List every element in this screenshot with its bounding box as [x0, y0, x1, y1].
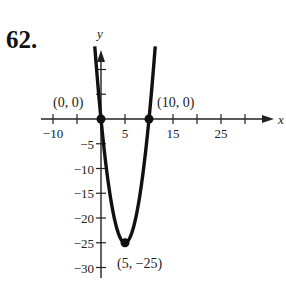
y-tick-label: −30	[74, 261, 94, 276]
point-label: (10, 0)	[157, 95, 195, 111]
parabola-plot: xy−1051525−5−10−15−20−25−30(0, 0)(10, 0)…	[0, 0, 286, 286]
y-axis-label: y	[95, 26, 103, 41]
y-axis-arrow-icon	[97, 50, 105, 62]
y-tick-label: −20	[74, 211, 94, 226]
point-marker	[97, 115, 106, 124]
x-axis-label: x	[277, 112, 284, 127]
x-axis-arrow-icon	[262, 115, 274, 123]
y-tick-label: −10	[74, 162, 94, 177]
point-label: (0, 0)	[53, 95, 84, 111]
x-tick-label: −10	[43, 126, 63, 141]
parabola-curve	[95, 46, 155, 242]
point-marker	[145, 115, 154, 124]
point-marker	[121, 238, 130, 247]
point-label: (5, −25)	[117, 256, 163, 272]
y-tick-label: −25	[74, 236, 94, 251]
x-tick-label: 5	[122, 126, 129, 141]
x-tick-label: 15	[167, 126, 180, 141]
y-tick-label: −15	[74, 186, 94, 201]
x-tick-label: 25	[215, 126, 228, 141]
y-tick-label: −5	[80, 137, 94, 152]
